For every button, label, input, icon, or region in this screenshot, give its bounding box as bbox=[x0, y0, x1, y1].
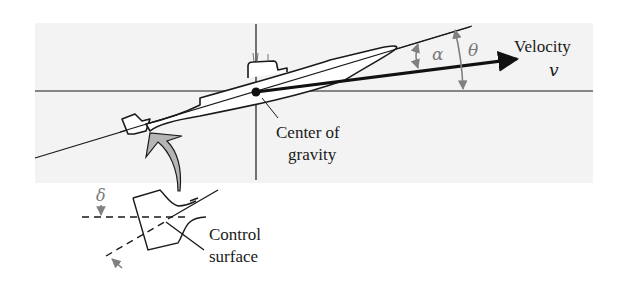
velocity-label: Velocity bbox=[514, 37, 571, 56]
control-label-line1: Control bbox=[209, 225, 261, 244]
cg-label-line1: Center of bbox=[276, 123, 340, 142]
cg-label-line2: gravity bbox=[288, 145, 337, 164]
theta-label: θ bbox=[468, 40, 478, 60]
control-label-line2: surface bbox=[209, 247, 258, 266]
control-leader-line bbox=[166, 222, 204, 250]
submarine-diagram: α θ Velocity v Center of gravity δ Contr… bbox=[0, 0, 621, 284]
deflected-dashed-line bbox=[106, 220, 168, 256]
alpha-label: α bbox=[432, 44, 444, 64]
velocity-symbol: v bbox=[549, 60, 559, 80]
delta-arrow-bottom bbox=[112, 259, 122, 268]
delta-label: δ bbox=[96, 186, 106, 205]
